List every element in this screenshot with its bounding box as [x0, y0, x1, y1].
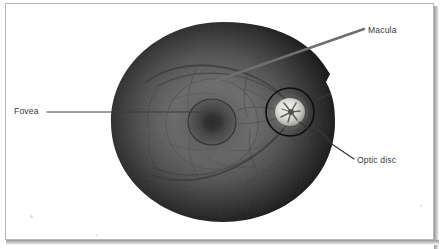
label-fovea: Fovea: [14, 107, 39, 116]
scan-speck: [420, 205, 422, 207]
scan-speck: [30, 215, 33, 218]
label-optic-disc: Optic disc: [357, 156, 396, 165]
fundus-illustration: [0, 0, 443, 249]
figure-root: Macula Fovea Optic disc: [0, 0, 443, 249]
optic-disc-region: [273, 96, 307, 128]
label-macula: Macula: [368, 26, 397, 35]
fovea-region: [188, 99, 236, 145]
scan-speck: [96, 234, 98, 236]
